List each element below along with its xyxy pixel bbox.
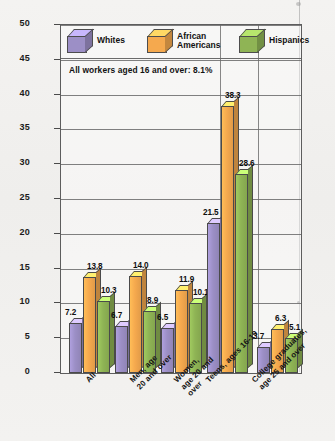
bar-value-label: 21.5 [203,208,219,217]
y-tick-label: 10 [4,296,30,306]
bar-value-label: 14.0 [133,261,149,270]
legend-item-african: African Americans [147,29,220,53]
gridline [61,234,301,235]
bar-whites [207,223,220,373]
y-tick-mark [54,59,60,60]
y-tick-label: 45 [4,53,30,63]
legend-item-hispanics: Hispanics [239,29,309,53]
legend-label: Hispanics [269,36,309,46]
y-tick-mark [54,163,60,164]
scan-artifact-dot-top [296,2,301,6]
bar-value-label: 10.3 [101,286,117,295]
legend-cube-icon [147,29,173,53]
bar-african [129,276,142,373]
gridline [61,129,301,130]
bar-african [83,277,96,373]
bar-value-label: 11.9 [179,275,194,284]
vertical-divider-2 [258,25,259,373]
gridline [61,60,301,61]
y-tick-mark [54,337,60,338]
bar-value-label: 13.8 [87,262,103,271]
y-tick-mark [54,302,60,303]
bar-value-label: 38.3 [225,91,241,100]
bar-whites [69,323,82,373]
bar-african [175,290,188,373]
y-tick-mark [54,24,60,25]
bar-value-label: 6.7 [111,311,122,320]
bar-value-label: 6.3 [275,314,286,323]
y-tick-label: 40 [4,88,30,98]
y-tick-mark [54,233,60,234]
y-tick-label: 5 [4,331,30,341]
legend-cube-icon [239,29,265,53]
gridline [61,199,301,200]
y-tick-label: 15 [4,262,30,272]
gridline [61,164,301,165]
y-tick-mark [54,198,60,199]
gridline [61,95,301,96]
bar-hispanics [97,301,110,373]
bar-value-label: 28.6 [239,159,255,168]
y-tick-mark [54,94,60,95]
bar-african [221,106,234,373]
y-tick-label: 0 [4,366,30,376]
legend-item-whites: Whites [67,29,125,53]
legend-cube-icon [67,29,93,53]
y-tick-label: 20 [4,227,30,237]
bar-value-label: 8.9 [147,296,158,305]
plot-area: WhitesAfrican AmericansHispanics All wor… [60,24,302,374]
y-tick-mark [54,128,60,129]
y-tick-label: 35 [4,122,30,132]
y-tick-label: 25 [4,192,30,202]
chart-annotation: All workers aged 16 and over: 8.1% [69,65,213,75]
bar-value-label: 7.2 [65,308,76,317]
legend-label: Whites [97,36,125,46]
y-tick-mark [54,372,60,373]
y-tick-label: 50 [4,18,30,28]
bar-value-label: 6.5 [157,313,168,322]
y-tick-label: 30 [4,157,30,167]
legend-label: African Americans [177,32,220,51]
y-tick-mark [54,268,60,269]
chart-legend: WhitesAfrican AmericansHispanics [61,25,301,59]
bar-whites [115,326,128,373]
